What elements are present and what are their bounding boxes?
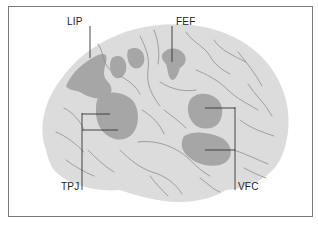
- brain-diagram: [0, 0, 318, 226]
- label-tpj: TPJ: [61, 181, 79, 192]
- label-fef: FEF: [176, 16, 196, 27]
- label-lip: LIP: [67, 16, 83, 27]
- label-vfc: VFC: [238, 181, 259, 192]
